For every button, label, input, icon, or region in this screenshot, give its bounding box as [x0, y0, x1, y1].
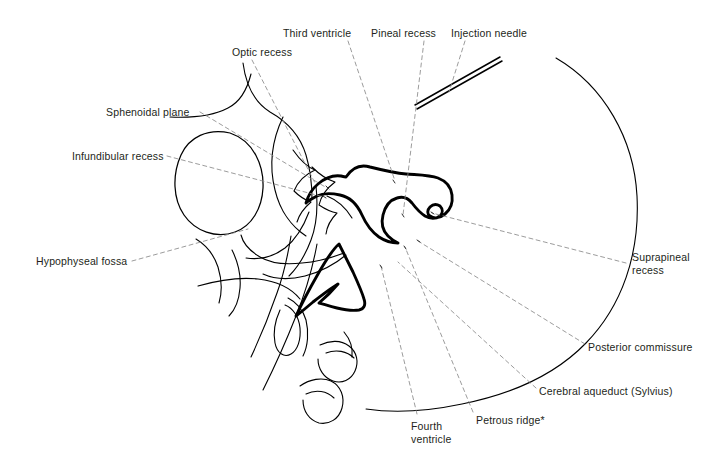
label-cerebral-aqueduct: Cerebral aqueduct (Sylvius)	[539, 385, 673, 398]
leader-lines	[132, 41, 626, 414]
leader-petrous-ridge	[405, 247, 473, 412]
maxilla-outline	[198, 278, 300, 299]
leader-suprapineal-recess	[432, 213, 626, 263]
anatomical-line-drawing	[0, 0, 727, 472]
label-sphenoidal-plane: Sphenoidal plane	[106, 106, 190, 119]
orbit-ring	[175, 132, 263, 235]
label-infundibular-recess: Infundibular recess	[72, 150, 164, 163]
label-fourth-ventricle: Fourth ventricle	[411, 420, 451, 446]
cervical-arch-c1	[326, 351, 354, 358]
skull-vault-arc	[366, 58, 637, 411]
injection-needle-shaft	[415, 57, 502, 109]
leader-posterior-commissure	[418, 241, 585, 344]
skull-base-anterior	[246, 212, 309, 259]
pharynx-anterior	[251, 236, 291, 357]
leader-sphenoidal-plane	[200, 112, 327, 188]
label-pineal-recess: Pineal recess	[371, 27, 436, 40]
tongue-base	[229, 250, 240, 316]
cervical-vertebra-c2	[300, 379, 343, 423]
label-suprapineal-recess: Suprapineal recess	[632, 251, 690, 277]
cervical-arch-c2	[306, 391, 334, 398]
label-third-ventricle: Third ventricle	[283, 27, 351, 40]
leader-pineal-recess	[403, 41, 424, 215]
mandible-curve	[196, 239, 221, 303]
label-optic-recess: Optic recess	[232, 46, 292, 59]
label-posterior-commissure: Posterior commissure	[588, 341, 693, 354]
sphenoid-sinus-outline	[272, 117, 306, 236]
figure-canvas: Optic recess Third ventricle Pineal rece…	[0, 0, 727, 472]
leader-infundibular-recess	[167, 156, 324, 197]
label-injection-needle: Injection needle	[451, 27, 527, 40]
hard-palate	[241, 235, 344, 264]
leader-injection-needle	[449, 41, 465, 92]
third-ventricle-outline	[306, 166, 452, 243]
pharynx-posterior	[263, 244, 317, 390]
label-hypophyseal-fossa: Hypophyseal fossa	[36, 255, 127, 268]
uvula-curve	[288, 298, 308, 356]
leader-fourth-ventricle	[381, 266, 417, 414]
label-petrous-ridge: Petrous ridge*	[476, 414, 545, 427]
leader-third-ventricle	[348, 41, 395, 181]
fourth-ventricle-outline	[296, 244, 365, 316]
palate-lower	[263, 255, 346, 278]
